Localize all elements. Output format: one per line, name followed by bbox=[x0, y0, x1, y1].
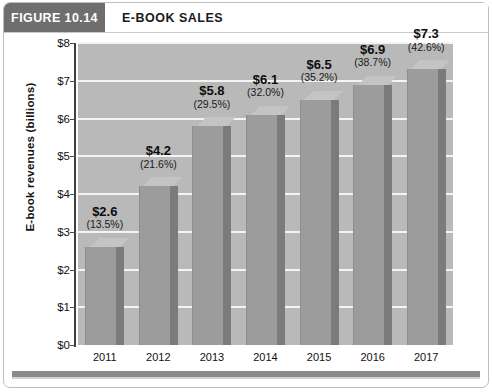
y-axis-tick-mark bbox=[70, 43, 76, 44]
bar bbox=[407, 69, 437, 345]
x-axis-tick-label: 2015 bbox=[289, 351, 349, 363]
bar-label: $4.2(21.6%) bbox=[113, 144, 203, 170]
y-axis-tick-mark bbox=[70, 119, 76, 120]
y-axis-tick-mark bbox=[70, 307, 76, 308]
bar-front-face bbox=[407, 69, 438, 345]
bar-value-percent: (29.5%) bbox=[167, 98, 257, 110]
bar-value-percent: (32.0%) bbox=[221, 86, 311, 98]
y-axis-tick-label: $7 bbox=[8, 75, 70, 87]
y-axis-tick-mark bbox=[70, 194, 76, 195]
bar bbox=[353, 85, 383, 345]
x-axis-tick-label: 2014 bbox=[236, 351, 296, 363]
bar-side-face bbox=[276, 115, 285, 345]
bar-front-face bbox=[246, 115, 277, 345]
y-axis-tick-mark bbox=[70, 156, 76, 157]
y-axis-tick-label: $2 bbox=[8, 264, 70, 276]
bar-side-face bbox=[222, 126, 231, 345]
bar-front-face bbox=[353, 85, 384, 345]
bar-side-face bbox=[330, 100, 339, 345]
bar-value-percent: (38.7%) bbox=[328, 56, 418, 68]
y-axis-line bbox=[74, 43, 76, 347]
footer-bar-shadow bbox=[12, 377, 480, 379]
bar-value-percent: (21.6%) bbox=[113, 158, 203, 170]
bar-side-face bbox=[383, 85, 392, 345]
y-axis-tick-mark bbox=[70, 81, 76, 82]
chart-area: E-book revenues (billions) $0$1$2$3$4$5$… bbox=[0, 33, 492, 368]
bar bbox=[246, 115, 276, 345]
bar-side-face bbox=[437, 69, 446, 345]
bar-side-face bbox=[115, 247, 124, 345]
bar-side-face bbox=[169, 186, 178, 345]
y-axis-tick-label: $8 bbox=[8, 37, 70, 49]
x-axis-tick-label: 2012 bbox=[128, 351, 188, 363]
bar bbox=[300, 100, 330, 345]
bar-front-face bbox=[85, 247, 116, 345]
y-axis-tick-mark bbox=[70, 232, 76, 233]
bar-value-percent: (35.2%) bbox=[274, 71, 364, 83]
x-axis-tick-label: 2011 bbox=[75, 351, 135, 363]
figure-container: FIGURE 10.14 E-BOOK SALES E-book revenue… bbox=[0, 0, 492, 392]
bar-value-amount: $7.3 bbox=[381, 27, 471, 41]
x-axis-tick-label: 2016 bbox=[343, 351, 403, 363]
bar-front-face bbox=[300, 100, 331, 345]
y-axis-tick-label: $1 bbox=[8, 301, 70, 313]
bar-label: $2.6(13.5%) bbox=[60, 205, 150, 231]
y-axis-tick-mark bbox=[70, 270, 76, 271]
bar bbox=[85, 247, 115, 345]
bar-top-face bbox=[90, 238, 129, 247]
bar-value-amount: $2.6 bbox=[60, 205, 150, 219]
y-axis-tick-label: $4 bbox=[8, 188, 70, 200]
y-axis-tick-label: $0 bbox=[8, 339, 70, 351]
bar-value-amount: $4.2 bbox=[113, 144, 203, 158]
x-axis-tick-label: 2017 bbox=[396, 351, 456, 363]
y-axis-tick-label: $6 bbox=[8, 113, 70, 125]
y-axis-tick-label: $5 bbox=[8, 150, 70, 162]
y-axis-tick-mark bbox=[70, 345, 76, 346]
x-axis-tick-label: 2013 bbox=[182, 351, 242, 363]
bar-value-percent: (42.6%) bbox=[381, 41, 471, 53]
bar-top-face bbox=[197, 117, 236, 126]
bar-value-percent: (13.5%) bbox=[60, 218, 150, 230]
bar-label: $7.3(42.6%) bbox=[381, 27, 471, 53]
figure-number-tag: FIGURE 10.14 bbox=[4, 3, 105, 32]
bar-top-face bbox=[143, 177, 182, 186]
